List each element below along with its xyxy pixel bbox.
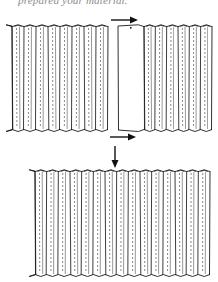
panel-bottom-combined bbox=[29, 170, 210, 277]
panel-top-right bbox=[118, 25, 212, 132]
arrow-down-icon bbox=[112, 146, 119, 168]
arrow-right-bottom-icon bbox=[110, 134, 136, 141]
panel-top-left bbox=[6, 25, 108, 132]
arrow-right-top-icon bbox=[111, 17, 138, 24]
pleating-diagram bbox=[0, 0, 218, 282]
